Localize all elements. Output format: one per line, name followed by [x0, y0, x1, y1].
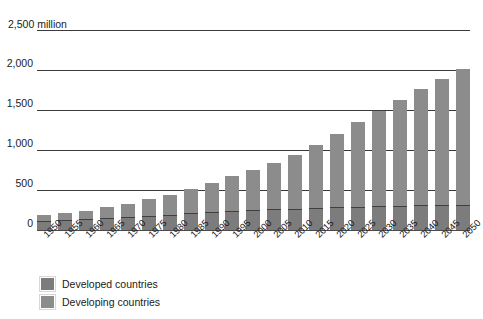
bar-segment-developing-2035: [393, 100, 407, 206]
bar-2040: [414, 30, 428, 230]
bar-1950: [37, 30, 51, 230]
bar-2005: [267, 30, 281, 230]
y-tick-label-500: 500: [15, 177, 33, 190]
bar-segment-developing-1960: [79, 211, 93, 220]
bar-2010: [288, 30, 302, 230]
y-tick-label-2000: 2,000: [7, 57, 33, 70]
bar-series: [37, 30, 470, 230]
bar-segment-developing-1970: [121, 204, 135, 217]
legend-item-developed: Developed countries: [40, 276, 160, 292]
bar-segment-developing-2050: [456, 69, 470, 204]
plot-area: [37, 30, 470, 230]
bar-1965: [100, 30, 114, 230]
bar-2020: [330, 30, 344, 230]
bar-1995: [225, 30, 239, 230]
bar-segment-developing-1955: [58, 213, 72, 221]
bar-segment-developing-2000: [246, 170, 260, 210]
bar-1990: [205, 30, 219, 230]
bar-1970: [121, 30, 135, 230]
bar-1980: [163, 30, 177, 230]
y-axis-labels: 05001,0001,5002,000: [0, 30, 37, 230]
legend-item-developing: Developing countries: [40, 294, 160, 310]
y-axis-unit-label: 2,500 million: [8, 18, 67, 30]
bar-2025: [351, 30, 365, 230]
bar-segment-developing-1995: [225, 176, 239, 211]
y-tick-label-1500: 1,500: [7, 97, 33, 110]
x-axis-labels: 1950195519601965197019751980198519901995…: [37, 232, 470, 278]
bar-2045: [435, 30, 449, 230]
bar-segment-developing-2045: [435, 79, 449, 205]
y-tick-label-0: 0: [27, 217, 33, 230]
bar-segment-developing-2030: [372, 111, 386, 206]
chart-legend: Developed countries Developing countries: [40, 276, 160, 312]
bar-segment-developing-2020: [330, 134, 344, 207]
bar-2000: [246, 30, 260, 230]
bar-segment-developing-1975: [142, 199, 156, 215]
bar-2050: [456, 30, 470, 230]
bar-segment-developing-1990: [205, 183, 219, 213]
bar-1975: [142, 30, 156, 230]
bar-segment-developing-2010: [288, 155, 302, 209]
bar-segment-developing-1985: [184, 189, 198, 213]
bar-2035: [393, 30, 407, 230]
legend-label-developed: Developed countries: [62, 278, 158, 290]
y-tick-label-1000: 1,000: [7, 137, 33, 150]
legend-swatch-developing: [40, 295, 55, 309]
bar-1960: [79, 30, 93, 230]
bar-1955: [58, 30, 72, 230]
bar-segment-developing-1965: [100, 207, 114, 218]
bar-2015: [309, 30, 323, 230]
bar-segment-developing-1980: [163, 195, 177, 215]
legend-label-developing: Developing countries: [62, 296, 160, 308]
bar-segment-developing-2015: [309, 145, 323, 208]
legend-swatch-developed: [40, 277, 55, 291]
bar-2030: [372, 30, 386, 230]
bar-segment-developing-2040: [414, 89, 428, 205]
bar-segment-developing-2025: [351, 122, 365, 206]
bar-segment-developing-2005: [267, 163, 281, 209]
bar-1985: [184, 30, 198, 230]
